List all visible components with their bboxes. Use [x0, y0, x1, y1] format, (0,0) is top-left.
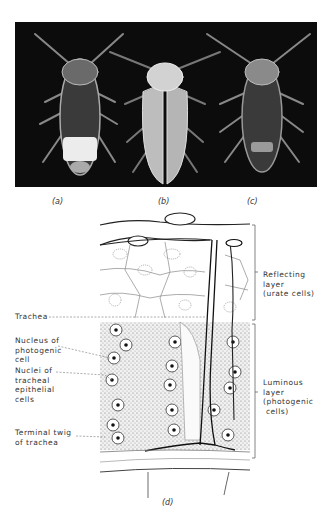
bracket-luminous — [252, 324, 255, 458]
label-nucleus-photogenic: Nucleus of photogenic cell — [15, 336, 62, 365]
label-reflecting-layer: Reflecting layer (urate cells) — [263, 270, 315, 299]
label-nuclei-tracheal: Nuclei of tracheal epithelial cells — [15, 366, 55, 404]
label-trachea: Trachea — [15, 312, 48, 322]
label-terminal-twig: Terminal twig of trachea — [15, 428, 72, 447]
caption-d: (d) — [162, 498, 173, 507]
urate-cells — [100, 242, 248, 318]
label-luminous-layer: Luminous layer (photogenic cells) — [263, 378, 313, 416]
bracket-reflecting — [252, 225, 255, 320]
